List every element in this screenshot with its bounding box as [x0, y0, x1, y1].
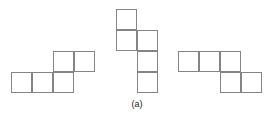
- figure-canvas: (a): [0, 0, 277, 120]
- grid-cell: [178, 51, 199, 72]
- figure-caption: (a): [117, 99, 157, 110]
- grid-cell: [220, 51, 241, 72]
- grid-cell: [199, 51, 220, 72]
- grid-cell: [241, 72, 262, 93]
- grid-cell: [220, 72, 241, 93]
